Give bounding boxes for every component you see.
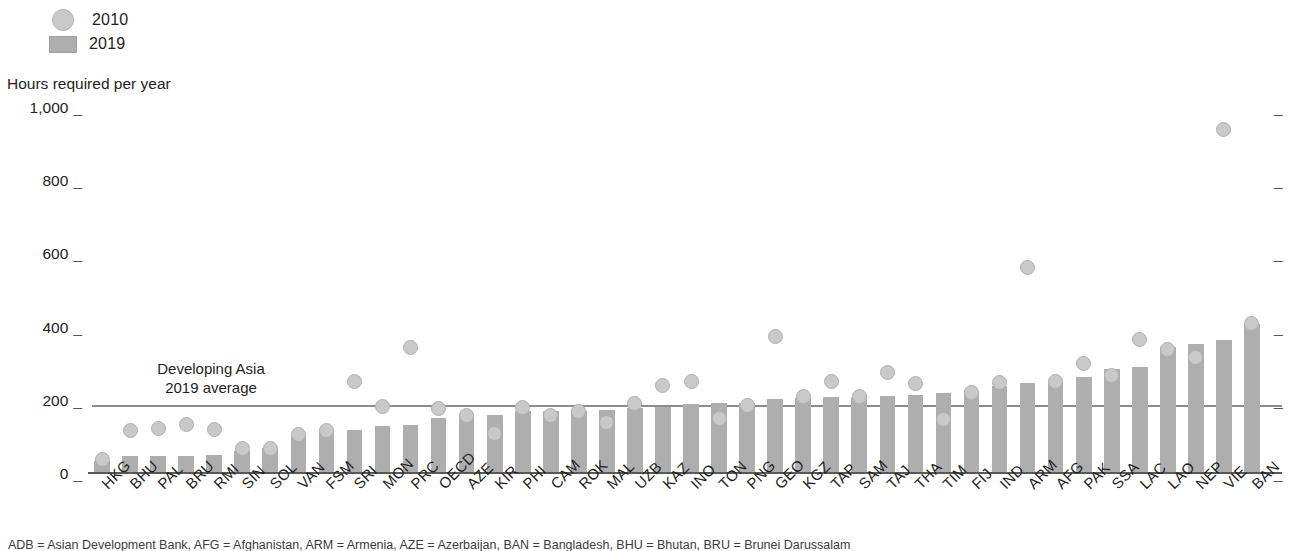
dot-VIE[interactable] xyxy=(1216,122,1231,137)
average-annotation-line2: 2019 average xyxy=(106,378,316,397)
dot-OECD[interactable] xyxy=(431,401,446,416)
dot-PNG[interactable] xyxy=(740,398,755,413)
chart-footnote: ADB = Asian Development Bank, AFG = Afgh… xyxy=(8,538,1293,551)
bar-BAN[interactable] xyxy=(1244,324,1260,474)
bar-SAM[interactable] xyxy=(851,397,867,474)
bar-ARM[interactable] xyxy=(1020,383,1036,475)
dot-PAL[interactable] xyxy=(151,421,166,436)
dot-SIN[interactable] xyxy=(235,441,250,456)
bar-FIJ[interactable] xyxy=(964,391,980,474)
y-tick-1000: 1,000_ xyxy=(30,99,88,117)
dot-RMI[interactable] xyxy=(207,422,222,437)
bar-THA[interactable] xyxy=(908,395,924,474)
circle-marker-icon xyxy=(52,9,74,31)
dot-PAK[interactable] xyxy=(1076,356,1091,371)
dot-HKG[interactable] xyxy=(95,452,110,467)
dot-SRI[interactable] xyxy=(347,374,362,389)
dot-KAZ[interactable] xyxy=(655,378,670,393)
y-axis-title: Hours required per year xyxy=(7,75,171,93)
y-tick-800: 800_ xyxy=(43,172,89,190)
legend-item-2010: 2010 xyxy=(52,8,128,32)
dot-VAN[interactable] xyxy=(291,427,306,442)
y-tick-right-1000: _ xyxy=(1266,99,1283,117)
dot-SOL[interactable] xyxy=(263,441,278,456)
dot-TON[interactable] xyxy=(712,411,727,426)
y-tick-200: 200_ xyxy=(43,392,89,410)
dot-MON[interactable] xyxy=(375,399,390,414)
bar-PHI[interactable] xyxy=(515,411,531,474)
y-tick-400: 400_ xyxy=(43,319,89,337)
bar-TIM[interactable] xyxy=(936,393,952,474)
legend-item-2019: 2019 xyxy=(52,32,128,56)
square-marker-icon xyxy=(49,36,77,53)
dot-SAM[interactable] xyxy=(852,389,867,404)
dot-BHU[interactable] xyxy=(123,423,138,438)
dot-BRU[interactable] xyxy=(179,417,194,432)
bar-PAK[interactable] xyxy=(1076,377,1092,474)
y-tick-600: 600_ xyxy=(43,245,89,263)
y-tick-0: 0_ xyxy=(60,465,88,483)
dot-PRC[interactable] xyxy=(403,340,418,355)
bar-LAO[interactable] xyxy=(1160,347,1176,474)
average-annotation: Developing Asia 2019 average xyxy=(106,359,316,397)
average-annotation-line1: Developing Asia xyxy=(106,359,316,378)
dot-ARM[interactable] xyxy=(1020,260,1035,275)
dot-AZE[interactable] xyxy=(459,408,474,423)
bar-MON[interactable] xyxy=(375,426,391,474)
legend-label-2019: 2019 xyxy=(89,35,125,53)
dot-GEO[interactable] xyxy=(768,329,783,344)
dot-KGZ[interactable] xyxy=(796,389,811,404)
y-tick-right-400: _ xyxy=(1266,319,1283,337)
dot-LAC[interactable] xyxy=(1132,332,1147,347)
dot-TAJ[interactable] xyxy=(880,365,895,380)
bar-SSA[interactable] xyxy=(1104,369,1120,474)
bar-VIE[interactable] xyxy=(1216,340,1232,474)
y-tick-right-200: _ xyxy=(1266,392,1283,410)
y-tick-right-800: _ xyxy=(1266,172,1283,190)
dot-TAP[interactable] xyxy=(824,374,839,389)
dot-IND[interactable] xyxy=(992,375,1007,390)
bar-LAC[interactable] xyxy=(1132,367,1148,474)
dot-INO[interactable] xyxy=(684,374,699,389)
bar-IND[interactable] xyxy=(992,386,1008,474)
y-tick-right-600: _ xyxy=(1266,245,1283,263)
chart-plot-area: 0_200_400_600_800_1,000_ ______ Developi… xyxy=(88,108,1266,474)
chart-legend: 2010 2019 xyxy=(52,8,128,56)
legend-label-2010: 2010 xyxy=(92,11,128,29)
dot-THA[interactable] xyxy=(908,376,923,391)
